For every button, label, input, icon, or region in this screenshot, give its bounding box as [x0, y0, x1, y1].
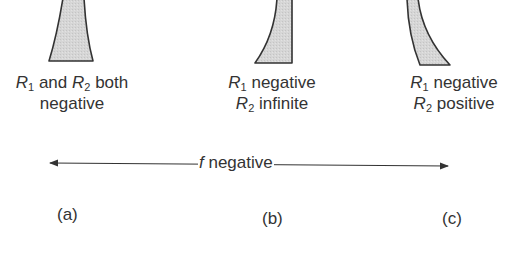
- lens-a-biconcave: [49, 0, 93, 61]
- r2-symbol: R: [72, 73, 84, 92]
- r1-symbol: R: [410, 73, 422, 92]
- panel-label-a: (a): [57, 205, 78, 225]
- caption-lens-a-line2: negative: [2, 93, 142, 114]
- caption-lens-b: R1 negative R2 infinite: [212, 72, 332, 114]
- caption-lens-a: R1 and R2 both negative: [2, 72, 142, 114]
- focal-length-label: f negative: [198, 153, 274, 173]
- caption-text: and: [34, 73, 72, 92]
- caption-text: infinite: [254, 94, 308, 113]
- caption-text: positive: [432, 94, 494, 113]
- caption-lens-b-line1: R1 negative: [212, 72, 332, 93]
- caption-lens-c-line2: R2 positive: [398, 93, 510, 114]
- r1-symbol: R: [228, 73, 240, 92]
- caption-lens-c: R1 negative R2 positive: [398, 72, 510, 114]
- lens-b-plano-concave: [255, 0, 292, 63]
- r2-symbol: R: [414, 94, 426, 113]
- focal-length-text: negative: [204, 153, 273, 172]
- caption-lens-b-line2: R2 infinite: [212, 93, 332, 114]
- caption-text: negative: [429, 73, 498, 92]
- panel-label-b: (b): [262, 209, 283, 229]
- r2-symbol: R: [236, 94, 248, 113]
- lens-diagram: [0, 0, 510, 270]
- caption-text: negative: [247, 73, 316, 92]
- lens-c-meniscus: [407, 0, 450, 65]
- panel-label-c: (c): [442, 209, 462, 229]
- caption-lens-c-line1: R1 negative: [398, 72, 510, 93]
- caption-lens-a-line1: R1 and R2 both: [2, 72, 142, 93]
- caption-text: both: [90, 73, 128, 92]
- r1-symbol: R: [16, 73, 28, 92]
